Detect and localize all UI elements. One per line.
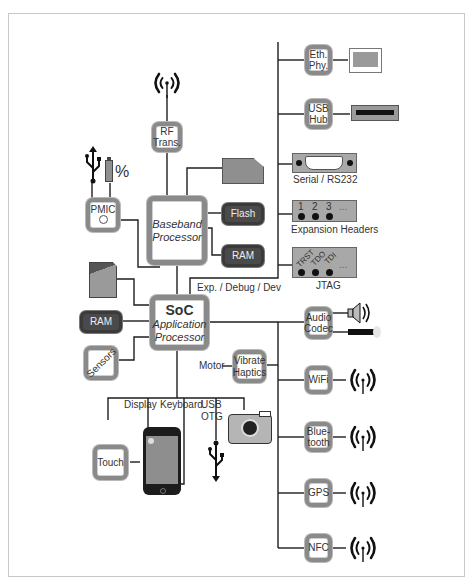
chip-label: NFC bbox=[308, 542, 329, 554]
chip-label: GPS bbox=[308, 487, 329, 499]
usb-icon bbox=[84, 146, 102, 186]
db9-serial-icon bbox=[292, 153, 357, 173]
usb-otg-label: USB bbox=[201, 399, 222, 410]
touch-chip[interactable]: Touch bbox=[93, 445, 128, 480]
chip-label: Blue- bbox=[307, 426, 330, 437]
pmic-chip[interactable]: PMIC bbox=[86, 198, 120, 232]
ethernet-phy-chip[interactable]: Eth.Phy. bbox=[305, 45, 332, 75]
battery-icon bbox=[105, 160, 113, 182]
chip-label: tooth bbox=[307, 437, 329, 448]
sd-card-icon bbox=[89, 262, 117, 298]
antenna-icon bbox=[346, 366, 380, 394]
wifi-chip[interactable]: WiFi bbox=[305, 366, 332, 394]
serial-rs232-label: Serial / RS232 bbox=[293, 174, 357, 185]
chip-label: Haptics bbox=[233, 367, 266, 378]
pin-label: ... bbox=[339, 259, 347, 270]
soc-application-processor-chip[interactable]: SoCApplicationProcessor bbox=[150, 295, 209, 350]
chip-label: Vibrate bbox=[234, 355, 266, 366]
sensors-chip[interactable]: Sensors bbox=[84, 346, 118, 380]
pin-label: 2 bbox=[312, 201, 318, 212]
power-icon bbox=[99, 215, 108, 224]
display-label: Display bbox=[124, 399, 157, 410]
chip-label: USB bbox=[308, 103, 329, 114]
chip-label: Codec bbox=[304, 323, 333, 334]
chip-label: Sensors bbox=[84, 346, 118, 380]
antenna-icon bbox=[346, 423, 380, 451]
baseband-ram-chip[interactable]: RAM bbox=[222, 245, 264, 267]
battery-percent-label: % bbox=[115, 163, 129, 181]
chip-label: Baseband bbox=[152, 218, 202, 230]
pin-label: 1 bbox=[298, 201, 304, 212]
connection-wires bbox=[0, 0, 476, 586]
antenna-icon bbox=[150, 70, 184, 98]
camera-icon bbox=[228, 414, 272, 444]
motor-label: Motor bbox=[199, 360, 225, 371]
microphone-icon bbox=[348, 329, 374, 335]
jtag-header-icon: TRST TDO TDI ... bbox=[292, 247, 357, 278]
chip-label: WiFi bbox=[309, 374, 329, 386]
usb-otg-label: OTG bbox=[201, 411, 223, 422]
bluetooth-chip[interactable]: Blue-tooth bbox=[305, 422, 332, 452]
baseband-processor-chip[interactable]: BasebandProcessor bbox=[147, 196, 207, 265]
rf-transceiver-chip[interactable]: RFTrans. bbox=[152, 122, 182, 152]
expansion-headers-label: Expansion Headers bbox=[291, 224, 378, 235]
speaker-icon bbox=[346, 300, 374, 326]
chip-label: Phy. bbox=[309, 60, 328, 71]
chip-label: RAM bbox=[232, 250, 254, 262]
chip-label: Application bbox=[153, 318, 207, 330]
chip-label: Trans. bbox=[153, 137, 181, 148]
soc-title: SoC bbox=[153, 302, 207, 318]
usb-icon bbox=[206, 440, 226, 482]
flash-chip[interactable]: Flash bbox=[222, 203, 264, 225]
audio-codec-chip[interactable]: AudioCodec bbox=[305, 307, 332, 339]
chip-label: RF bbox=[160, 126, 173, 137]
expansion-headers-icon: 1 2 3 ... bbox=[292, 200, 357, 222]
ethernet-port-icon bbox=[349, 48, 382, 73]
soc-ram-chip[interactable]: RAM bbox=[80, 311, 122, 333]
chip-label: Audio bbox=[306, 312, 332, 323]
nfc-chip[interactable]: NFC bbox=[305, 534, 332, 562]
usb-hub-chip[interactable]: USBHub bbox=[305, 99, 332, 129]
chip-label: Eth. bbox=[310, 49, 328, 60]
gps-chip[interactable]: GPS bbox=[305, 479, 332, 507]
sim-card-icon bbox=[222, 158, 264, 184]
pin-label: ... bbox=[339, 201, 347, 212]
chip-label: RAM bbox=[90, 316, 112, 328]
vibrate-haptics-chip[interactable]: VibrateHaptics bbox=[233, 350, 266, 383]
exp-debug-dev-label: Exp. / Debug / Dev bbox=[197, 282, 281, 293]
antenna-icon bbox=[346, 534, 380, 562]
pin-label: 3 bbox=[326, 201, 332, 212]
keyboard-label: Keyboard bbox=[160, 399, 203, 410]
microphone-head bbox=[373, 326, 381, 338]
jtag-label: JTAG bbox=[316, 280, 341, 291]
chip-label: Hub bbox=[309, 114, 327, 125]
smartphone-icon bbox=[143, 427, 181, 495]
chip-label: PMIC bbox=[91, 204, 116, 215]
chip-label: Processor bbox=[152, 231, 202, 243]
chip-label: Flash bbox=[231, 208, 255, 220]
battery-terminal bbox=[107, 157, 111, 160]
chip-label: Touch bbox=[97, 457, 124, 469]
antenna-icon bbox=[346, 479, 380, 507]
chip-label: Processor bbox=[155, 331, 205, 343]
usb-port-icon bbox=[351, 105, 399, 121]
